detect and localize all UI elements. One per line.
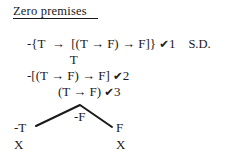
checkmark-icon-1: ✔ [159, 37, 169, 51]
proof-line-1-formula: -{T → [(T → F) → F]} [27, 36, 156, 51]
branch-left-label: -T [14, 120, 26, 135]
proof-line-3-check-number: 2 [123, 68, 130, 83]
proof-line-5-formula: -F [74, 109, 86, 124]
proof-page: Zero premises -{T → [(T → F) → F]} ✔1 S.… [0, 0, 248, 164]
branch-left-close-marker: X [14, 137, 23, 152]
branch-right-close-marker: X [116, 137, 125, 152]
page-title: Zero premises [13, 4, 98, 19]
proof-line-4-check-number: 3 [114, 84, 121, 99]
proof-line-1-justification: S.D. [188, 37, 210, 51]
proof-line-5: -F [61, 94, 86, 139]
checkmark-icon-3: ✔ [104, 85, 114, 99]
branch-right-label: F [116, 120, 123, 135]
